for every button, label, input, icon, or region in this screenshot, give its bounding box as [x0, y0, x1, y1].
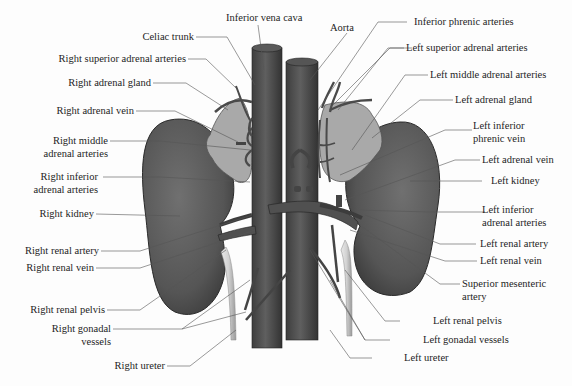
label-line: Right gonadal — [52, 323, 111, 334]
label-line: artery — [462, 291, 486, 302]
label-left-ureter: Left ureter — [404, 352, 449, 365]
left-gonadal-vessel-shape-2 — [332, 225, 338, 282]
label-inferior-phrenic-arteries: Inferior phrenic arteries — [414, 16, 514, 29]
right-renal-vein-shape — [218, 226, 256, 241]
label-right-renal-artery: Right renal artery — [0, 245, 99, 258]
label-right-middle-adrenal-arteries: Right middle adrenal arteries — [0, 135, 108, 160]
left-ureter-shape — [341, 240, 352, 336]
label-left-superior-adrenal-arteries: Left superior adrenal arteries — [406, 42, 528, 55]
label-right-inferior-adrenal-arteries: Right inferior adrenal arteries — [0, 171, 98, 196]
label-line: adrenal arteries — [34, 184, 98, 195]
label-line: Superior mesenteric — [462, 278, 546, 289]
label-celiac-trunk: Celiac trunk — [130, 31, 194, 44]
label-superior-mesenteric-artery: Superior mesenteric artery — [462, 278, 546, 303]
label-line: adrenal arteries — [482, 217, 546, 228]
label-right-adrenal-gland: Right adrenal gland — [0, 77, 151, 90]
label-right-renal-pelvis: Right renal pelvis — [0, 304, 105, 317]
label-inferior-vena-cava: Inferior vena cava — [226, 12, 302, 25]
label-line: Left inferior — [473, 120, 525, 131]
label-right-gonadal-vessels: Right gonadal vessels — [0, 323, 111, 348]
label-left-renal-vein: Left renal vein — [480, 255, 542, 268]
label-line: vessels — [81, 336, 111, 347]
label-line: Right middle — [53, 135, 108, 146]
label-right-adrenal-vein: Right adrenal vein — [0, 105, 134, 118]
label-left-inferior-adrenal-arteries: Left inferior adrenal arteries — [482, 204, 546, 229]
label-left-adrenal-gland: Left adrenal gland — [455, 94, 532, 107]
label-aorta: Aorta — [330, 22, 354, 35]
label-line: phrenic vein — [473, 133, 525, 144]
label-left-adrenal-vein: Left adrenal vein — [482, 154, 554, 167]
label-line: Left inferior — [482, 204, 534, 215]
label-left-gonadal-vessels: Left gonadal vessels — [423, 334, 509, 347]
label-left-renal-pelvis: Left renal pelvis — [433, 315, 502, 328]
label-right-kidney: Right kidney — [0, 208, 94, 221]
label-left-kidney: Left kidney — [491, 175, 540, 188]
inferior-vena-cava-shape — [252, 48, 282, 348]
label-left-middle-adrenal-arteries: Left middle adrenal arteries — [430, 69, 546, 82]
label-left-inferior-phrenic-vein: Left inferior phrenic vein — [473, 120, 525, 145]
label-line: adrenal arteries — [44, 148, 108, 159]
label-right-superior-adrenal-arteries: Right superior adrenal arteries — [0, 53, 186, 66]
kidney-adrenal-diagram: Inferior vena cava Aorta Celiac trunk Ri… — [0, 0, 572, 386]
label-right-renal-vein: Right renal vein — [0, 262, 94, 275]
label-line: Right inferior — [41, 171, 98, 182]
label-left-renal-artery: Left renal artery — [480, 238, 548, 251]
label-right-ureter: Right ureter — [0, 360, 165, 373]
